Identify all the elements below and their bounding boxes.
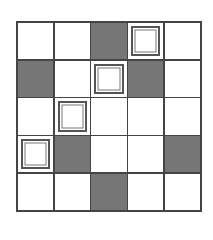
grid-cell-empty [165, 61, 200, 97]
grid-cell-empty [18, 23, 53, 59]
grid-cell-empty [91, 98, 126, 134]
grid-cell-empty [55, 61, 90, 97]
grid-cell-empty [18, 174, 53, 210]
grid-cell-dark [18, 61, 53, 97]
grid-cell-square [128, 23, 163, 59]
grid-cell-dark [91, 23, 126, 59]
grid-diagram [16, 21, 202, 212]
grid-cell-empty [165, 174, 200, 210]
outlined-square-icon [58, 101, 87, 131]
grid-cell-empty [165, 98, 200, 134]
grid-cell-empty [55, 174, 90, 210]
outlined-square-icon [21, 139, 50, 169]
grid-cell-empty [55, 23, 90, 59]
grid-cell-square [18, 136, 53, 172]
grid-cell-square [91, 61, 126, 97]
grid-cell-dark [55, 136, 90, 172]
grid-cell-empty [128, 174, 163, 210]
grid-cell-dark [91, 174, 126, 210]
grid-cell-empty [91, 136, 126, 172]
grid-cell-empty [18, 98, 53, 134]
grid-cell-empty [128, 98, 163, 134]
grid-cell-dark [128, 61, 163, 97]
grid-cell-dark [165, 136, 200, 172]
outlined-square-icon [94, 64, 123, 94]
grid-cell-square [55, 98, 90, 134]
grid-cell-empty [128, 136, 163, 172]
outlined-square-icon [131, 26, 160, 56]
grid-cell-empty [165, 23, 200, 59]
